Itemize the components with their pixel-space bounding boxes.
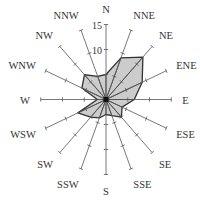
direction-label-nw: NW: [36, 30, 54, 41]
direction-label-sse: SSE: [133, 179, 151, 190]
direction-label-wsw: WSW: [10, 129, 36, 140]
direction-label-nne: NNE: [133, 10, 155, 21]
axis-sw: [60, 100, 106, 153]
direction-label-w: W: [20, 95, 30, 106]
wind-rose-chart: NNNENEENEEESESESSESSSWSWWSWWWNWNWNNW1015: [0, 0, 200, 202]
direction-label-n: N: [102, 4, 110, 15]
center-marker: [104, 97, 109, 102]
axis-se: [106, 100, 152, 153]
direction-label-s: S: [103, 186, 109, 197]
direction-label-sw: SW: [37, 159, 53, 170]
direction-label-ese: ESE: [176, 129, 195, 140]
direction-label-ssw: SSW: [57, 179, 79, 190]
direction-label-se: SE: [159, 159, 171, 170]
direction-label-ene: ENE: [176, 60, 196, 71]
direction-label-e: E: [182, 95, 188, 106]
direction-label-wnw: WNW: [8, 60, 35, 71]
radial-tick-label: 15: [92, 20, 102, 31]
radial-tick-label: 10: [92, 45, 102, 56]
direction-label-ne: NE: [159, 30, 173, 41]
direction-label-nnw: NNW: [54, 10, 79, 21]
wind-rose-svg: NNNENEENEEESESESSESSSWSWWSWWWNWNWNNW1015: [0, 0, 200, 202]
